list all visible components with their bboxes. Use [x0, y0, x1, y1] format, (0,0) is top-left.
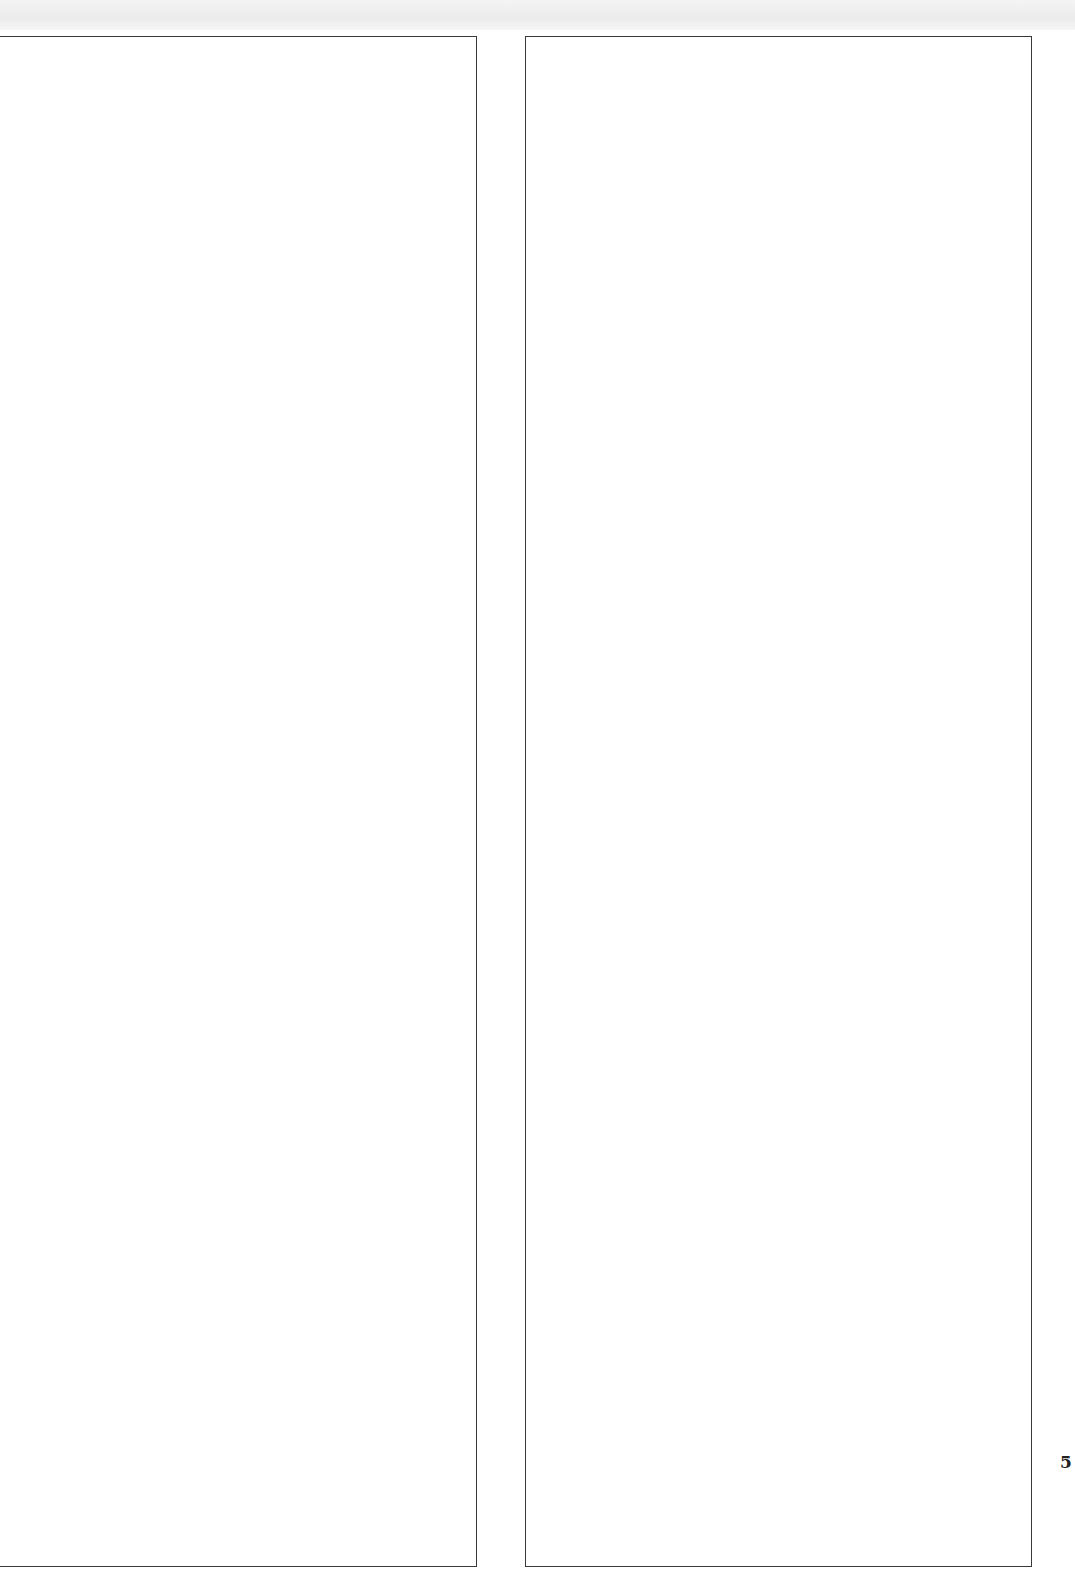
right-empty-frame [525, 36, 1032, 1567]
page-number: 5 [1060, 1452, 1072, 1472]
scan-bleed-through-strip [0, 0, 1075, 30]
left-empty-frame [0, 36, 477, 1567]
